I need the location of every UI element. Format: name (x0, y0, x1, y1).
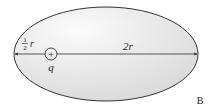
fraction-denominator: 2 (23, 44, 27, 52)
fraction-variable: r (30, 38, 34, 49)
charge-label: q (48, 61, 54, 73)
ellipse-diagram: + q 1 2 r 2r B (0, 0, 209, 108)
fraction-numerator: 1 (23, 36, 27, 44)
figure-label: B (197, 95, 204, 106)
right-segment-label: 2r (123, 40, 134, 52)
charge-sign: + (48, 49, 54, 60)
